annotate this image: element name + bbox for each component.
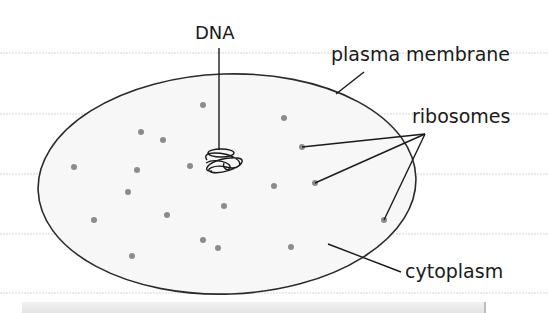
dna-label: DNA: [195, 24, 235, 42]
bottom-caption-band: [22, 302, 486, 313]
ribosomes-label: ribosomes: [412, 107, 510, 126]
plasma-membrane-pointer: [336, 72, 364, 94]
plasma-membrane-label: plasma membrane: [331, 45, 510, 64]
cytoplasm-label: cytoplasm: [405, 262, 503, 281]
plasma-membrane: [34, 67, 419, 300]
